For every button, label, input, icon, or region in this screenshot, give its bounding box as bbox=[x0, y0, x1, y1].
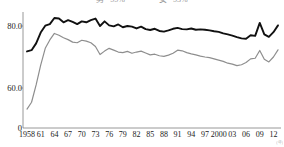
x-axis-tick-82: 82 bbox=[133, 130, 141, 139]
x-axis-labels: 1958616467707376798285889194972000030609… bbox=[23, 130, 281, 142]
x-axis-tick-94: 94 bbox=[187, 130, 195, 139]
x-axis-tick-64: 64 bbox=[50, 130, 58, 139]
x-axis-tick-73: 73 bbox=[91, 130, 99, 139]
x-axis-tick-09: 09 bbox=[256, 130, 264, 139]
x-axis-tick-03: 03 bbox=[228, 130, 236, 139]
x-axis-tick-97: 97 bbox=[201, 130, 209, 139]
x-axis-tick-2000: 2000 bbox=[211, 130, 227, 139]
x-axis-tick-79: 79 bbox=[119, 130, 127, 139]
x-axis-tick-85: 85 bbox=[146, 130, 154, 139]
x-axis-tick-88: 88 bbox=[160, 130, 168, 139]
x-axis-tick-06: 06 bbox=[242, 130, 250, 139]
x-axis-tick-61: 61 bbox=[37, 130, 45, 139]
series-line-black-line bbox=[27, 18, 278, 51]
plot-area bbox=[0, 0, 284, 147]
x-axis-tick-1958: 1958 bbox=[19, 130, 35, 139]
x-axis-tick-91: 91 bbox=[174, 130, 182, 139]
x-axis-unit-label: (年) bbox=[276, 140, 283, 146]
x-axis-tick-76: 76 bbox=[105, 130, 113, 139]
x-axis-tick-70: 70 bbox=[78, 130, 86, 139]
x-axis-tick-67: 67 bbox=[64, 130, 72, 139]
x-axis-tick-12: 12 bbox=[269, 130, 277, 139]
chart-container: 男 55% 女 53% 80.0 60.0 0 1958616467707376… bbox=[0, 0, 284, 147]
series-line-gray-line bbox=[27, 33, 278, 109]
